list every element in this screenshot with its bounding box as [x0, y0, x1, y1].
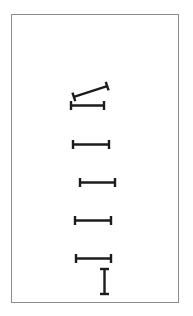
i-beam-marker [67, 97, 108, 114]
figure-canvas [0, 0, 193, 316]
i-beam-marker [76, 174, 119, 191]
plot-frame [11, 14, 179, 303]
i-beam-marker [96, 265, 113, 298]
i-beam-marker [69, 136, 113, 153]
i-beam-marker [71, 212, 115, 229]
plot-area [12, 15, 178, 302]
